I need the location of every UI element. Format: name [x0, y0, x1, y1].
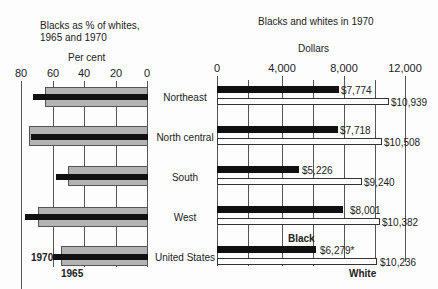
bar-white-united-states — [217, 258, 377, 265]
bar-1970-west — [25, 214, 148, 220]
right-chart-title: Blacks and whites in 1970 — [258, 16, 374, 28]
left-tick-80: 80 — [15, 67, 27, 79]
bar-white-west — [217, 218, 380, 225]
left-tick-20: 20 — [110, 67, 122, 79]
legend-1970-label: 1970 — [31, 253, 53, 263]
left-axis-unit: Per cent — [68, 53, 105, 63]
left-title-line1: Blacks as % of whites, — [40, 20, 139, 32]
legend-1965-label: 1965 — [61, 269, 83, 279]
left-gridline-60 — [53, 81, 54, 267]
category-south: South — [172, 172, 198, 183]
bar-1970-united-states — [53, 254, 148, 260]
left-chart-title: Blacks as % of whites, 1965 and 1970 — [40, 20, 139, 44]
legend-white-label: White — [349, 269, 376, 279]
bar-black-south — [217, 166, 299, 173]
value-black-northeast: $7,774 — [341, 85, 372, 96]
category-west: West — [174, 212, 197, 223]
bar-white-northeast — [217, 98, 389, 105]
bar-black-north-central — [217, 126, 338, 133]
value-black-south: $5,226 — [302, 165, 333, 176]
right-gridline-2000 — [248, 80, 249, 266]
value-white-south: $9,240 — [364, 177, 395, 188]
category-united-states: United States — [155, 252, 215, 263]
right-axis-unit: Dollars — [298, 44, 329, 54]
value-black-west: $8,001 — [350, 205, 381, 216]
bar-black-west — [217, 206, 343, 213]
left-title-line2: 1965 and 1970 — [40, 32, 139, 44]
bar-black-northeast — [217, 86, 339, 93]
value-black-north-central: $7,718 — [340, 125, 371, 136]
value-white-northeast: $10,939 — [391, 97, 427, 108]
left-gridline-80 — [21, 81, 22, 289]
category-northeast: Northeast — [163, 92, 206, 103]
left-tick-0: 0 — [144, 67, 150, 79]
value-white-united-states: $10,236 — [380, 257, 416, 268]
right-tick-0: 0 — [214, 62, 220, 74]
right-gridline-10000 — [375, 80, 376, 260]
value-black-united-states: $6,279* — [320, 245, 354, 256]
value-white-north-central: $10,508 — [384, 137, 420, 148]
right-tick-12000: 12,000 — [388, 62, 422, 74]
value-white-west: $10,382 — [382, 217, 418, 228]
legend-black-label: Black — [288, 234, 315, 244]
bar-white-north-central — [217, 138, 382, 145]
category-north-central: North central — [156, 132, 213, 143]
left-tick-40: 40 — [78, 67, 90, 79]
bar-1970-northeast — [33, 94, 148, 100]
right-tick-8000: 8,000 — [330, 62, 358, 74]
left-tick-60: 60 — [47, 67, 59, 79]
right-tick-4000: 4,000 — [268, 62, 296, 74]
bar-1970-north-central — [31, 134, 148, 140]
bar-1970-south — [56, 174, 148, 180]
bar-black-united-states — [217, 246, 316, 253]
bar-white-south — [217, 178, 362, 185]
